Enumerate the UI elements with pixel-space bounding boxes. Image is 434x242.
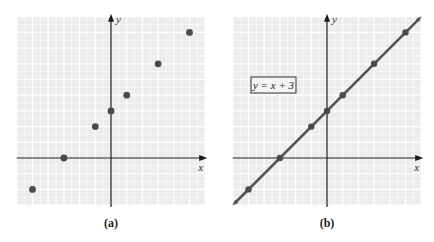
data-point — [324, 108, 330, 114]
data-point — [245, 186, 251, 192]
panel-b: xyy = x + 3 — [232, 13, 423, 207]
panel-a: xy — [17, 13, 207, 207]
data-point — [402, 29, 408, 35]
data-point — [155, 60, 162, 67]
data-point — [186, 29, 193, 36]
svg-text:y = x + 3: y = x + 3 — [252, 79, 295, 91]
data-point — [277, 155, 283, 161]
x-axis-label: x — [197, 161, 203, 173]
y-axis-label: y — [115, 13, 121, 25]
chart-canvas: xyxyy = x + 3 — [0, 0, 434, 242]
x-axis-label: x — [413, 161, 419, 173]
data-point — [371, 61, 377, 67]
y-axis-label: y — [331, 13, 337, 25]
data-point — [92, 123, 99, 130]
equation-label: y = x + 3 — [251, 77, 296, 93]
data-point — [340, 92, 346, 98]
data-point — [308, 123, 314, 129]
data-point — [108, 108, 115, 115]
data-point — [61, 155, 68, 162]
caption-a: (a) — [91, 216, 131, 231]
data-point — [29, 186, 36, 193]
caption-b: (b) — [307, 216, 347, 231]
data-point — [123, 92, 130, 99]
